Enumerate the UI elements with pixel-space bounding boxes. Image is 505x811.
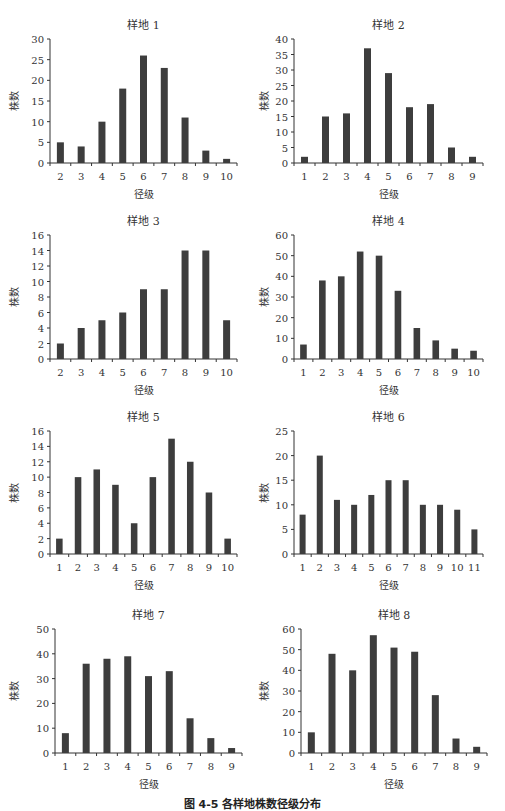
bar: [228, 748, 235, 753]
bar: [432, 695, 439, 753]
bar: [420, 505, 426, 554]
bar: [98, 320, 105, 359]
y-tick-label: 20: [275, 96, 288, 107]
bar: [161, 289, 168, 359]
chart-title: 样地 5: [127, 410, 160, 424]
bar: [57, 142, 64, 163]
bar: [207, 738, 214, 753]
x-tick-label: 9: [469, 171, 475, 182]
bar: [83, 664, 90, 753]
x-tick-label: 2: [75, 562, 81, 573]
bar: [145, 676, 152, 753]
chart-panel-5: 样地 5024681012141612345678910径级株数: [0, 400, 255, 604]
bar: [187, 462, 194, 554]
chart-panel-1: 样地 10510152025302345678910径级株数: [0, 0, 255, 204]
bar: [473, 747, 480, 753]
bar: [471, 529, 477, 554]
bar: [364, 48, 371, 163]
x-tick-label: 8: [433, 367, 439, 378]
y-tick-label: 0: [38, 549, 44, 560]
bar: [78, 146, 85, 163]
y-axis-label: 株数: [8, 681, 20, 701]
y-axis-label: 株数: [8, 91, 20, 111]
y-tick-label: 10: [275, 500, 288, 511]
y-tick-label: 40: [282, 665, 295, 676]
x-tick-label: 5: [376, 367, 382, 378]
y-tick-label: 0: [38, 158, 44, 169]
y-tick-label: 0: [289, 748, 295, 759]
x-tick-label: 7: [427, 171, 433, 182]
chart-panel-2: 样地 20510152025303540123456789径级株数: [250, 0, 505, 204]
x-tick-label: 5: [145, 761, 151, 772]
figure-caption: 图 4-5 各样地株数径级分布: [0, 795, 505, 811]
y-tick-label: 5: [38, 137, 44, 148]
x-axis-label: 径级: [134, 188, 154, 200]
x-tick-label: 7: [402, 562, 408, 573]
bar: [223, 320, 230, 359]
bar: [131, 523, 138, 554]
bar: [124, 656, 131, 753]
bar: [206, 493, 213, 555]
y-tick-label: 50: [282, 645, 295, 656]
bar: [334, 500, 340, 554]
x-tick-label: 9: [451, 367, 457, 378]
y-tick-label: 4: [38, 323, 44, 334]
x-tick-label: 5: [368, 562, 374, 573]
x-tick-label: 2: [57, 171, 63, 182]
bar: [182, 251, 189, 360]
bar: [329, 654, 336, 753]
x-tick-label: 2: [319, 367, 325, 378]
chart-title: 样地 4: [372, 214, 405, 228]
y-tick-label: 30: [36, 674, 49, 685]
x-tick-label: 3: [104, 761, 110, 772]
x-tick-label: 1: [301, 171, 307, 182]
chart-panel-7: 样地 701020304050123456789径级株数: [0, 600, 255, 804]
bar: [469, 157, 476, 163]
bar: [368, 495, 374, 554]
x-tick-label: 10: [221, 562, 234, 573]
x-tick-label: 9: [206, 562, 212, 573]
x-tick-label: 6: [406, 171, 412, 182]
y-tick-label: 15: [31, 96, 44, 107]
x-tick-label: 10: [467, 367, 480, 378]
x-tick-label: 8: [182, 171, 188, 182]
y-tick-label: 40: [275, 271, 288, 282]
y-tick-label: 30: [31, 34, 44, 45]
y-tick-label: 25: [31, 55, 44, 66]
x-tick-label: 9: [437, 562, 443, 573]
bar: [411, 652, 418, 753]
y-tick-label: 10: [31, 117, 44, 128]
x-tick-label: 4: [364, 171, 370, 182]
y-tick-label: 30: [275, 65, 288, 76]
x-tick-label: 10: [220, 171, 233, 182]
y-tick-label: 10: [275, 127, 288, 138]
y-axis-label: 株数: [258, 91, 270, 111]
chart-title: 样地 3: [127, 214, 160, 228]
x-tick-label: 7: [168, 562, 174, 573]
x-tick-label: 1: [299, 562, 305, 573]
x-tick-label: 3: [338, 367, 344, 378]
x-tick-label: 2: [57, 367, 63, 378]
bar: [62, 733, 69, 753]
bar: [78, 328, 85, 359]
x-tick-label: 6: [150, 562, 156, 573]
bar: [349, 670, 356, 753]
bar: [308, 732, 315, 753]
bar: [437, 505, 443, 554]
x-tick-label: 3: [343, 171, 349, 182]
y-tick-label: 16: [31, 426, 44, 437]
y-tick-label: 60: [275, 230, 288, 241]
chart-panel-6: 样地 605101520251234567891011径级株数: [250, 400, 505, 604]
bar: [224, 539, 231, 554]
y-tick-label: 25: [275, 426, 288, 437]
x-axis-label: 径级: [134, 384, 154, 396]
x-tick-label: 8: [453, 761, 459, 772]
x-tick-label: 8: [187, 562, 193, 573]
bar: [150, 477, 157, 554]
y-tick-label: 0: [38, 354, 44, 365]
y-tick-label: 20: [275, 313, 288, 324]
x-tick-label: 7: [414, 367, 420, 378]
bar: [140, 289, 147, 359]
x-tick-label: 7: [161, 367, 167, 378]
x-tick-label: 5: [120, 367, 126, 378]
